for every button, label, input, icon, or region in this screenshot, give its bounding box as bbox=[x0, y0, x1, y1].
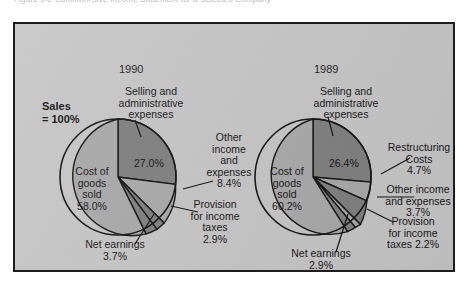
chart-title-1989: 1989 bbox=[314, 63, 338, 75]
slice-label-1990-cogs: Cost of goods sold 58.0% bbox=[61, 166, 123, 212]
slice-label-1989-other-income: Other income and expenses 3.7% bbox=[379, 184, 457, 219]
chart-title-1990: 1990 bbox=[119, 63, 143, 75]
figure-panel: 1990 1989 Sales = 100% 27.0% Cost of goo… bbox=[13, 22, 455, 272]
slice-label-1989-income-taxes: Provision for income taxes 2.2% bbox=[371, 216, 455, 251]
slice-label-1990-net-earnings: Net earnings 3.7% bbox=[73, 239, 157, 262]
slice-label-1989-net-earnings: Net earnings 2.9% bbox=[279, 248, 363, 271]
slice-label-1989-restructuring: Restructuring Costs 4.7% bbox=[383, 142, 455, 177]
slice-value-1990-selling-admin: 27.0% bbox=[134, 157, 164, 169]
slice-label-1989-cogs: Cost of goods sold 60.2% bbox=[256, 166, 318, 212]
slice-label-1989-selling-admin: Selling and administrative expenses bbox=[301, 86, 391, 121]
slice-label-1990-selling-admin: Selling and administrative expenses bbox=[106, 86, 196, 121]
slice-value-1989-selling-admin: 26.4% bbox=[329, 157, 359, 169]
figure-caption: Figure 1-2 Common-Size Income Statement … bbox=[14, 0, 454, 7]
